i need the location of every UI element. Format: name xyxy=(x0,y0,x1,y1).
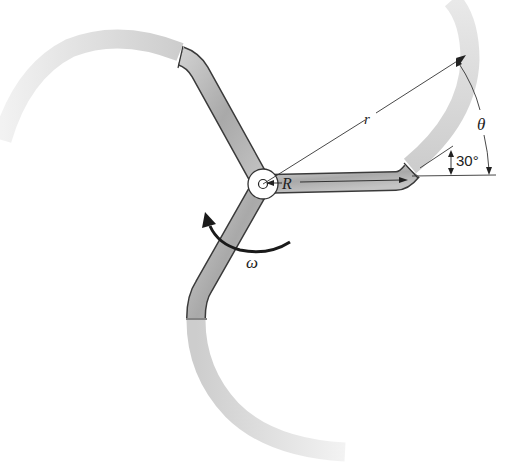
spray-path-upper-left xyxy=(2,39,180,140)
r-label: r xyxy=(364,111,370,127)
theta-arc-lower xyxy=(484,135,489,170)
omega-arrowhead xyxy=(202,212,216,228)
angle-30-arrow-up xyxy=(448,150,454,157)
spray-path-right xyxy=(410,0,470,166)
rotor-arms xyxy=(178,46,418,319)
angle-30-arrow-down xyxy=(448,168,454,175)
R-label: R xyxy=(281,175,292,192)
theta-label: θ xyxy=(477,115,485,134)
omega-label: ω xyxy=(246,253,258,272)
r-dimension: r xyxy=(263,55,466,184)
sprinkler-diagram: r R 30° θ ω xyxy=(0,0,521,464)
theta-arrowhead-bottom xyxy=(486,167,492,175)
spray-path-bottom xyxy=(196,320,345,452)
angle-30-label: 30° xyxy=(456,152,479,169)
horizontal-reference-line xyxy=(412,175,496,176)
